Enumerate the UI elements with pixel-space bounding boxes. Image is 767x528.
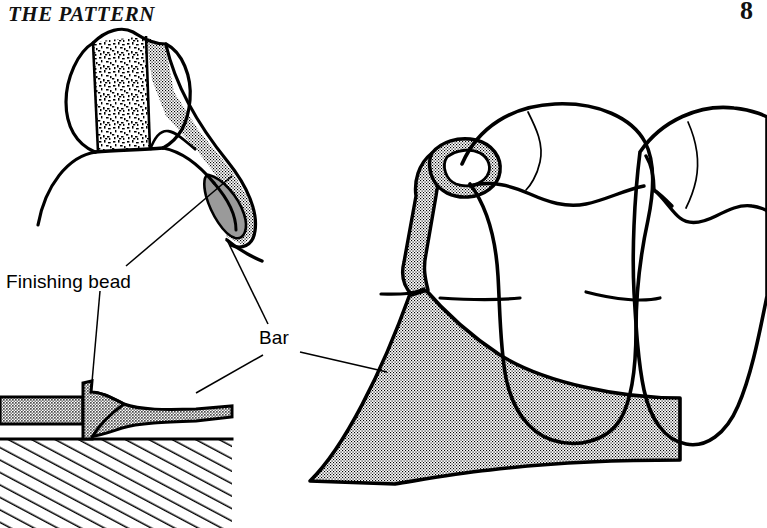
- major-connector-stipple: [310, 288, 680, 484]
- second-molar-cusp-festoon: [654, 190, 672, 206]
- second-molar-occlusal-line: [646, 156, 767, 222]
- right-occlusal-view: [310, 104, 767, 484]
- second-molar-groove: [686, 122, 698, 208]
- second-molar-outline: [633, 107, 767, 444]
- figure-page: THE PATTERN 8: [0, 0, 767, 528]
- dental-pattern-figure: [0, 0, 767, 528]
- gingival-line-right: [440, 298, 520, 300]
- gingival-line-far-right: [586, 292, 660, 300]
- cast-hatched-block: [0, 440, 232, 528]
- residual-ridge-outline: [38, 152, 96, 225]
- leader-bar-to-lower: [196, 355, 263, 393]
- acrylic-resin-region: [93, 36, 150, 152]
- lower-left-cross-section: [0, 381, 232, 528]
- leader-bar-to-major-connector: [300, 352, 387, 372]
- label-finishing-bead: Finishing bead: [6, 271, 131, 293]
- first-molar-occlusal-line: [470, 184, 644, 206]
- leader-bar-to-upper: [226, 238, 268, 324]
- bar-left-section: [0, 397, 83, 424]
- leader-finishing-bead-to-lower: [92, 291, 100, 382]
- first-molar-groove: [526, 112, 541, 190]
- label-bar: Bar: [259, 327, 289, 349]
- tooth-left-cusp-outline: [66, 43, 95, 152]
- upper-left-cross-section: [38, 29, 262, 261]
